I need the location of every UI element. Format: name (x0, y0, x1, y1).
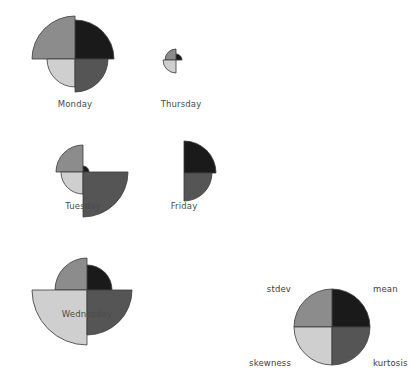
sector-stdev (165, 49, 176, 60)
sector-mean (184, 141, 216, 173)
glyph-label-wednesday: Wednesday (62, 309, 113, 319)
sector-skewness (163, 60, 176, 73)
glyph-label-friday: Friday (171, 201, 198, 211)
glyph-thursday (163, 49, 182, 73)
sector-mean (176, 54, 182, 60)
glyph-label-thursday: Thursday (161, 99, 202, 109)
star-glyph-plot-page: { "figure": { "background_color": "#ffff… (0, 0, 412, 382)
glyph-label-tuesday: Tuesday (65, 201, 101, 211)
sector-mean (75, 20, 114, 59)
sector-mean (87, 265, 112, 290)
legend-label-mean: mean (373, 284, 398, 294)
sector-mean (83, 166, 89, 172)
glyph-legend (294, 289, 370, 365)
sector-kurtosis (184, 173, 212, 201)
sector-kurtosis (332, 327, 370, 365)
sector-mean (332, 289, 370, 327)
sector-kurtosis (75, 59, 108, 92)
legend-label-skewness: skewness (249, 358, 291, 368)
glyph-label-monday: Monday (58, 99, 92, 109)
star-glyph-chart-canvas (0, 0, 412, 382)
glyph-monday (32, 16, 114, 92)
sector-skewness (294, 327, 332, 365)
sector-stdev (56, 145, 83, 172)
sector-skewness (47, 59, 75, 87)
legend-label-kurtosis: kurtosis (373, 358, 408, 368)
sector-skewness (61, 172, 83, 194)
sector-stdev (32, 16, 75, 59)
sector-stdev (55, 258, 87, 290)
glyph-wednesday (32, 258, 132, 345)
glyph-friday (184, 141, 216, 201)
legend-label-stdev: stdev (267, 284, 291, 294)
sector-stdev (294, 289, 332, 327)
